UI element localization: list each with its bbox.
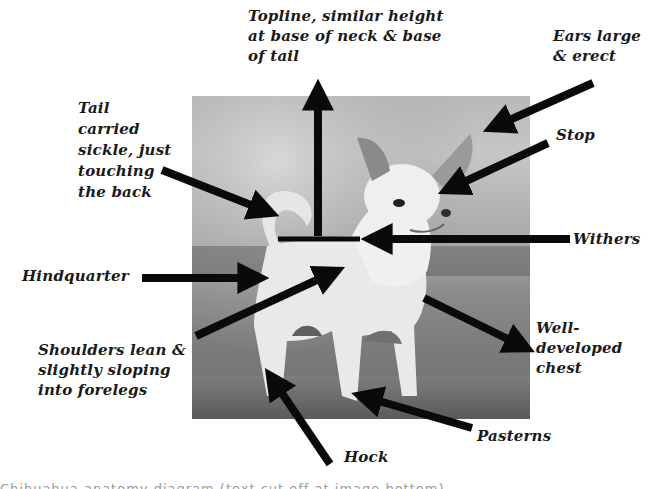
label-stop: Stop xyxy=(556,125,595,145)
cutoff-caption: Chihuahua anatomy diagram (text cut off … xyxy=(0,482,662,489)
label-hindquarter: Hindquarter xyxy=(22,266,129,286)
dog-illustration xyxy=(192,96,530,419)
label-topline: Topline, similar height at base of neck … xyxy=(248,6,444,66)
label-ears: Ears large & erect xyxy=(553,26,641,66)
label-hock: Hock xyxy=(344,447,389,467)
label-pasterns: Pasterns xyxy=(477,426,551,446)
cutoff-caption-text: Chihuahua anatomy diagram (text cut off … xyxy=(0,480,662,489)
chihuahua-photo xyxy=(192,96,530,419)
label-shoulders: Shoulders lean & slightly sloping into f… xyxy=(38,340,186,400)
label-tail: Tail carried sickle, just touching the b… xyxy=(78,98,171,203)
label-chest: Well- developed chest xyxy=(536,318,622,378)
label-withers: Withers xyxy=(573,229,640,249)
